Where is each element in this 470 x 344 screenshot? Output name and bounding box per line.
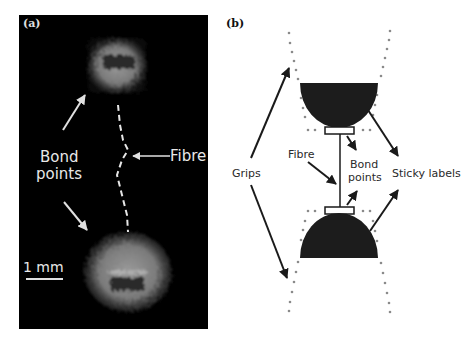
bond-points-label-2: points — [348, 171, 382, 184]
panel-a: (a) Bond points Fibre 1 mm — [19, 15, 208, 329]
bottom-bond-point — [84, 232, 172, 312]
figure: (a) Bond points Fibre 1 mm (b) — [0, 0, 470, 344]
bottom-bond-rect — [325, 207, 354, 214]
bond-points-label-2: points — [36, 165, 82, 183]
bottom-grip — [300, 213, 378, 258]
grips-arrow-bottom — [251, 185, 287, 278]
bond-points-arrow-bottom — [347, 191, 357, 205]
panel-b-label: (b) — [226, 17, 244, 30]
grips-arrow-top — [251, 68, 289, 158]
scale-bar-label: 1 mm — [23, 259, 64, 275]
bond-points-label: Bond — [40, 148, 79, 166]
sticky-labels-label: Sticky labels — [392, 167, 461, 180]
grips-label: Grips — [232, 167, 261, 180]
panel-b: (b) — [226, 17, 461, 313]
fibre-arrow — [308, 162, 336, 184]
bond-points-label: Bond — [350, 158, 378, 171]
top-bond-rect — [325, 127, 354, 134]
sticky-labels-arrow-bottom — [370, 190, 398, 231]
top-grip — [300, 83, 378, 128]
top-bond-point — [88, 38, 146, 93]
panel-a-label: (a) — [23, 17, 41, 30]
sticky-labels-arrow-top — [368, 110, 398, 156]
fibre-label: Fibre — [170, 147, 206, 165]
bond-points-arrow-top — [347, 136, 356, 150]
fibre-label: Fibre — [288, 148, 315, 161]
